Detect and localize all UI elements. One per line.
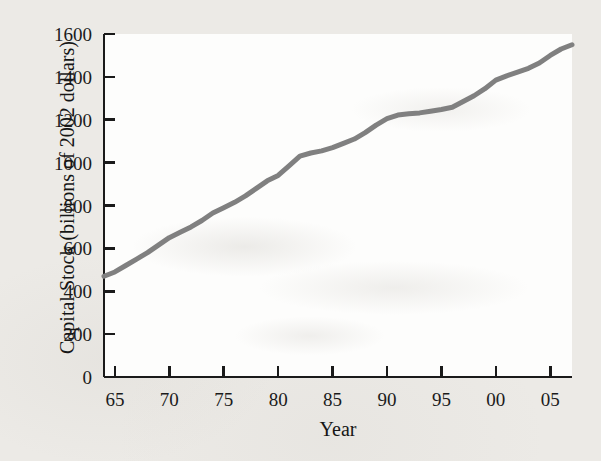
x-axis-tick-label: 95 [432,390,451,409]
x-axis-tick-label: 85 [323,390,342,409]
x-axis-tick-label: 75 [214,390,233,409]
x-axis-tick-label: 80 [269,390,288,409]
x-axis-tick-label: 90 [377,390,396,409]
axis-frame [104,34,572,377]
x-axis-tick-label: 70 [160,390,179,409]
x-axis-tick-label: 05 [541,390,560,409]
x-axis-tick-label: 65 [105,390,124,409]
y-axis-title: Capital Stock (billions of 2002 dollars) [56,0,79,398]
x-axis-tick-label: 00 [486,390,505,409]
x-axis-title: Year [104,418,572,441]
axis-ticks [104,34,550,377]
figure-container: 0200400600800100012001400160065707580859… [0,0,601,461]
data-series-group [104,45,572,277]
data-line [104,45,572,277]
